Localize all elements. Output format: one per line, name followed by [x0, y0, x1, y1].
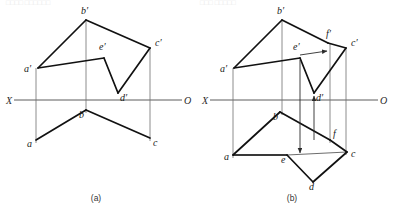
- figure-caption-figure-a: (a): [91, 193, 102, 203]
- point-label-b-lower: b: [273, 111, 278, 122]
- point-label-c-prime: c′: [351, 37, 358, 48]
- point-label-d-lower: d: [309, 181, 315, 192]
- point-label-e-prime: e′: [293, 41, 300, 52]
- point-label-e-prime: e′: [99, 41, 106, 52]
- figure-a: XOb′a′c′e′d′abc(a): [5, 5, 191, 203]
- point-label-d-prime: d′: [316, 92, 324, 103]
- edge-b-c-lower: [86, 110, 150, 138]
- technical-drawing-svg: XOb′a′c′e′d′abc(a)XOb′a′c′e′d′f′abcedf(b…: [0, 0, 394, 217]
- point-label-e-lower: e: [281, 154, 286, 165]
- edge-a-prime-e-prime: [234, 58, 300, 68]
- point-label-a-lower: a: [224, 151, 229, 162]
- edge-a-prime-e-prime: [38, 58, 104, 68]
- point-label-f-lower: f: [333, 128, 337, 139]
- point-label-d-prime: d′: [120, 92, 128, 103]
- edge-b-prime-f-prime: [282, 20, 328, 43]
- edge-d-prime-c-prime: [118, 48, 150, 93]
- edge-f-prime-c-prime: [328, 43, 346, 48]
- edge-a-prime-b-prime: [38, 20, 86, 68]
- drawing-canvas: □□□□ □□□□□□ □□□ □□□□□ XOb′a′c′e′d′abc(a)…: [0, 0, 394, 217]
- figures-group: XOb′a′c′e′d′abc(a)XOb′a′c′e′d′f′abcedf(b…: [5, 5, 387, 203]
- edge-f-c-lower: [330, 140, 347, 152]
- point-label-b-lower: b: [79, 109, 84, 120]
- edge-b-prime-c-prime: [86, 20, 150, 48]
- point-label-f-prime: f′: [326, 28, 332, 39]
- edge-e-prime-d-prime: [104, 58, 118, 93]
- edge-b-f-lower: [280, 112, 330, 140]
- axis-label-x: X: [5, 95, 13, 106]
- auxiliary-line-e-f-lower: [287, 152, 347, 155]
- point-label-c-lower: c: [153, 137, 158, 148]
- point-label-b-prime: b′: [277, 5, 285, 16]
- edge-d-c-lower: [313, 152, 347, 182]
- axis-label-o: O: [380, 95, 387, 106]
- figure-caption-figure-b: (b): [287, 193, 298, 203]
- point-label-a-prime: a′: [220, 63, 228, 74]
- arrow-e-prime-to-f-prime: [300, 51, 327, 55]
- axis-label-x: X: [201, 95, 209, 106]
- point-label-c-lower: c: [351, 148, 356, 159]
- figure-b: XOb′a′c′e′d′f′abcedf(b): [201, 5, 387, 203]
- point-label-b-prime: b′: [81, 5, 89, 16]
- point-label-a-prime: a′: [24, 63, 32, 74]
- axis-label-o: O: [184, 95, 191, 106]
- edge-e-prime-d-prime: [300, 58, 314, 93]
- edge-a-prime-b-prime: [234, 20, 282, 68]
- point-label-c-prime: c′: [155, 37, 162, 48]
- edge-e-d-lower: [287, 155, 313, 182]
- point-label-a-lower: a: [27, 138, 32, 149]
